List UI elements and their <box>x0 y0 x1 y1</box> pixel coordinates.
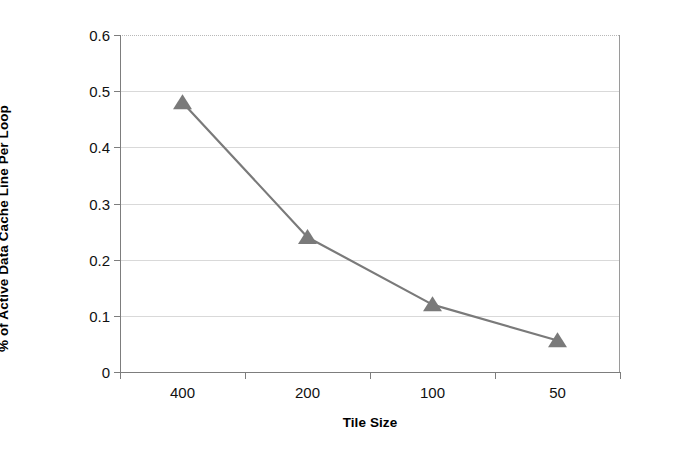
data-series-layer <box>0 0 676 457</box>
data-point-marker <box>548 332 567 347</box>
data-point-marker <box>173 94 192 109</box>
chart-container: % of Active Data Cache Line Per Loop 0.6… <box>0 0 676 457</box>
series-line <box>183 102 558 340</box>
series-markers <box>173 94 567 347</box>
x-axis-title: Tile Size <box>120 415 620 430</box>
data-point-marker <box>423 296 442 311</box>
